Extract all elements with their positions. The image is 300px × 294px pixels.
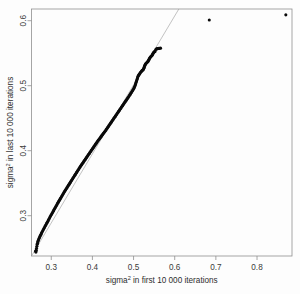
x-axis-label: sigma2 in first 10 000 iterations (106, 275, 218, 285)
plot-canvas: 0.30.40.50.60.70.8 0.30.40.50.6 sigma2 i… (0, 0, 300, 294)
data-point (208, 19, 211, 22)
x-axis-title: sigma2 in first 10 000 iterations (106, 275, 218, 285)
x-tick-label: 0.6 (169, 263, 181, 272)
y-axis-label: sigma2 in last 10 000 iterations (5, 77, 15, 188)
y-axis-title: sigma2 in last 10 000 iterations (5, 77, 15, 188)
data-point (159, 47, 162, 50)
x-tick-label: 0.4 (87, 263, 99, 272)
y-tick-label: 0.6 (20, 15, 29, 27)
plot-background (0, 0, 300, 294)
x-tick-label: 0.3 (46, 263, 58, 272)
data-point (284, 13, 287, 16)
y-tick-label: 0.4 (20, 145, 29, 157)
x-tick-label: 0.7 (210, 263, 222, 272)
y-tick-label: 0.5 (20, 80, 29, 92)
x-tick-label: 0.5 (128, 263, 140, 272)
y-tick-label: 0.3 (20, 210, 29, 222)
x-tick-label: 0.8 (251, 263, 263, 272)
scatter-plot-figure: 0.30.40.50.60.70.8 0.30.40.50.6 sigma2 i… (0, 0, 300, 294)
